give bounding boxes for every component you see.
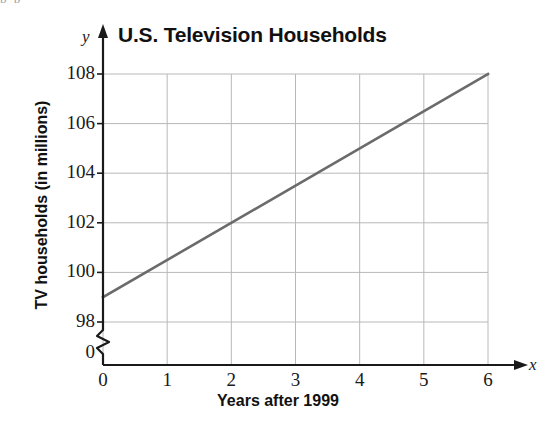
y-axis-tick-label: 0	[39, 341, 95, 363]
y-axis-arrowhead	[98, 24, 108, 38]
y-axis-tick-label: 100	[39, 260, 95, 282]
vertical-gridlines	[103, 74, 488, 365]
y-axis-tick-label: 108	[39, 62, 95, 84]
x-axis-tick-label: 2	[211, 369, 251, 391]
x-axis-tick-label: 0	[83, 369, 123, 391]
y-axis-tick-label: 102	[39, 211, 95, 233]
x-axis-tick-label: 3	[276, 369, 316, 391]
y-axis-tick-label: 106	[39, 112, 95, 134]
x-axis-arrowhead	[514, 360, 528, 370]
x-axis-tick-label: 4	[340, 369, 380, 391]
y-axis-tick-label: 98	[39, 310, 95, 332]
y-axis-tick-label: 104	[39, 161, 95, 183]
x-axis-tick-label: 1	[147, 369, 187, 391]
chart-figure: p p U.S. Television Households y x TV ho…	[0, 0, 556, 422]
x-axis-tick-label: 5	[404, 369, 444, 391]
x-axis-tick-label: 6	[468, 369, 508, 391]
